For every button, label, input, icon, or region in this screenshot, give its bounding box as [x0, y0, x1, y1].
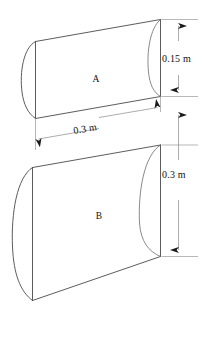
part-b-right-inner-curve	[139, 145, 160, 257]
dimension-label-height-a: 0.15 m	[162, 53, 191, 64]
figure-container: A B 0.15 m	[0, 0, 204, 337]
dimension-height-a: 0.15 m	[162, 20, 199, 97]
part-b-left-cap-curve	[12, 168, 32, 301]
part-b-shape: B	[12, 145, 160, 301]
part-a-bottom-edge	[36, 97, 161, 119]
part-a-top-edge	[36, 20, 161, 42]
engineering-diagram: A B 0.15 m	[0, 0, 204, 337]
dim-arrow-width-right	[99, 108, 158, 118]
part-a-label: A	[93, 74, 100, 84]
part-b-label: B	[96, 211, 102, 221]
part-a-shape: A	[21, 20, 160, 119]
part-a-left-cap-curve	[21, 42, 35, 119]
dimension-width-shared: 0.3 m	[36, 97, 161, 151]
part-a-right-inner-curve	[148, 20, 161, 97]
part-b-bottom-edge	[33, 257, 161, 301]
dimension-height-b: 0.3 m	[162, 115, 199, 257]
part-b-top-edge	[33, 145, 161, 168]
dimension-label-height-b: 0.3 m	[162, 169, 186, 180]
dimension-label-width-shared: 0.3 m	[72, 121, 97, 136]
